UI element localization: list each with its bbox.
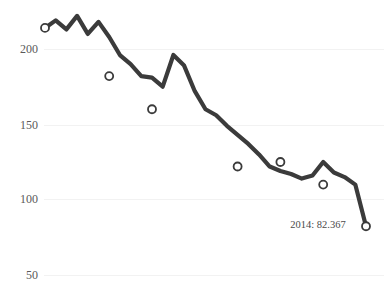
ytick-label-200: 200 (20, 42, 38, 56)
ytick-label-150: 150 (20, 118, 38, 132)
ytick-label-50: 50 (26, 268, 38, 282)
data-point-marker (148, 105, 156, 113)
data-point-marker (41, 24, 49, 32)
ytick-label-100: 100 (20, 192, 38, 206)
data-point-marker (276, 158, 284, 166)
chart-background (0, 0, 384, 285)
data-point-marker (362, 222, 370, 230)
data-point-marker (234, 163, 242, 171)
end-value-annotation: 2014: 82.367 (290, 219, 345, 230)
data-point-marker (105, 72, 113, 80)
chart-canvas: 200 150 100 50 2014: 82.367 (0, 0, 384, 285)
data-point-marker (319, 181, 327, 189)
line-chart: 200 150 100 50 2014: 82.367 (0, 0, 384, 285)
